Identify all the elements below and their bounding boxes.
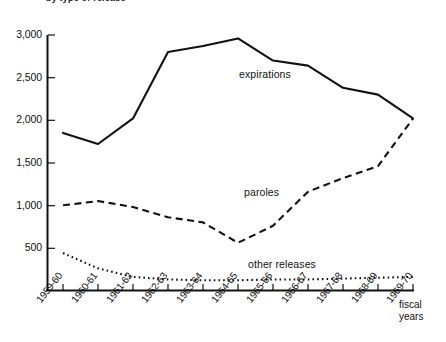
y-tick-label: 1,500 [0, 156, 42, 168]
series-label-paroles: paroles [244, 186, 279, 198]
x-axis-caption: fiscal years [399, 299, 423, 322]
series-line-paroles [63, 118, 413, 242]
y-tick-label: 1,000 [0, 199, 42, 211]
series-label-expirations: expirations [239, 68, 291, 80]
y-tick-label: 2,500 [0, 71, 42, 83]
y-tick-label: 3,000 [0, 28, 42, 40]
series-label-other-releases: other releases [248, 258, 316, 270]
y-tick-label: 2,000 [0, 113, 42, 125]
y-tick-label: 500 [0, 241, 42, 253]
chart-container: by type of release [0, 0, 446, 342]
y-axis-ticks [48, 35, 55, 248]
x-axis-caption-line2: years [399, 311, 423, 323]
x-axis-caption-line1: fiscal [399, 299, 423, 311]
series-line-expirations [63, 38, 413, 144]
